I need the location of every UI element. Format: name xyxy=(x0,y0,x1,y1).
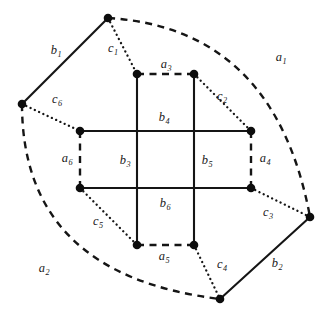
inner-vertex-bottom-right xyxy=(190,241,199,250)
edge-label-c2-base: c xyxy=(217,89,223,103)
inner-vertex-top-left xyxy=(133,70,142,79)
edge-label-b5: b5 xyxy=(202,154,213,167)
edge-label-b4: b4 xyxy=(159,111,170,124)
edge-label-b5-base: b xyxy=(202,153,208,167)
edge-label-c2: c2 xyxy=(217,90,227,103)
edge-label-c4-base: c xyxy=(217,257,223,271)
edge-label-c6: c6 xyxy=(52,93,62,106)
edge-label-c5-base: c xyxy=(93,214,99,228)
edge-label-c3: c3 xyxy=(263,206,273,219)
edge-label-a2: a2 xyxy=(39,262,50,275)
inner-vertex-left-bottom xyxy=(76,184,85,193)
edge-label-c5: c5 xyxy=(93,215,103,228)
edge-label-b6-base: b xyxy=(160,196,166,210)
outer-vertex-right xyxy=(306,213,315,222)
edge-label-b2-sub: 2 xyxy=(278,262,282,271)
edge-label-a5-base: a xyxy=(159,249,165,263)
edge-label-c3-base: c xyxy=(263,205,269,219)
inner-vertex-right-top xyxy=(247,127,256,136)
edge-label-b3-base: b xyxy=(120,153,126,167)
edge-label-a5: a5 xyxy=(159,250,170,263)
edge-label-a6-sub: 6 xyxy=(68,157,72,166)
edge-label-c6-base: c xyxy=(52,92,58,106)
edge-label-a5-sub: 5 xyxy=(165,255,169,264)
edge-label-a4: a4 xyxy=(260,152,271,165)
edge-label-a1-sub: 1 xyxy=(282,56,286,65)
outer-vertex-left xyxy=(18,100,27,109)
outer-vertex-bottom xyxy=(216,295,225,304)
edge-label-c4: c4 xyxy=(217,258,227,271)
edge-a2 xyxy=(22,104,220,299)
edge-c4 xyxy=(194,245,220,299)
edge-label-b4-sub: 4 xyxy=(165,116,169,125)
edge-label-a3-base: a xyxy=(161,57,167,71)
edge-label-b1: b1 xyxy=(51,44,62,57)
edge-label-a6-base: a xyxy=(62,151,68,165)
edge-label-c5-sub: 5 xyxy=(99,220,103,229)
inner-vertex-left-top xyxy=(76,127,85,136)
edge-label-b5-sub: 5 xyxy=(208,159,212,168)
edge-label-b2: b2 xyxy=(272,257,283,270)
edge-label-c6-sub: 6 xyxy=(58,98,62,107)
edge-label-b3-sub: 3 xyxy=(126,159,130,168)
edge-label-c2-sub: 2 xyxy=(223,95,227,104)
edge-label-a4-sub: 4 xyxy=(266,157,270,166)
edge-label-a2-sub: 2 xyxy=(45,267,49,276)
edge-label-b6-sub: 6 xyxy=(166,202,170,211)
edge-c6 xyxy=(22,104,80,131)
inner-vertex-right-bottom xyxy=(247,184,256,193)
edge-b1 xyxy=(22,18,108,104)
edge-label-b4-base: b xyxy=(159,110,165,124)
edge-label-b1-sub: 1 xyxy=(57,49,61,58)
edge-b2 xyxy=(220,217,310,299)
edge-label-c1-sub: 1 xyxy=(114,47,118,56)
edge-label-a2-base: a xyxy=(39,261,45,275)
edge-label-a3-sub: 3 xyxy=(167,63,171,72)
edge-label-b1-base: b xyxy=(51,43,57,57)
edge-label-a4-base: a xyxy=(260,151,266,165)
edge-label-a6: a6 xyxy=(62,152,73,165)
edge-label-c1: c1 xyxy=(108,42,118,55)
edge-label-c4-sub: 4 xyxy=(223,263,227,272)
edge-label-a3: a3 xyxy=(161,58,172,71)
edge-label-b2-base: b xyxy=(272,256,278,270)
edge-label-b3: b3 xyxy=(120,154,131,167)
edge-label-c1-base: c xyxy=(108,41,114,55)
outer-vertex-top xyxy=(104,14,113,23)
graph-figure: a1 a2 a3 a4 a5 a6 b1 b2 b3 b4 b5 b6 c1 c… xyxy=(0,0,325,326)
inner-vertex-bottom-left xyxy=(133,241,142,250)
inner-vertex-top-right xyxy=(190,70,199,79)
edge-label-a1-base: a xyxy=(276,50,282,64)
edge-label-a1: a1 xyxy=(276,51,287,64)
edge-label-c3-sub: 3 xyxy=(269,211,273,220)
edge-c3 xyxy=(251,188,310,217)
edge-label-b6: b6 xyxy=(160,197,171,210)
edge-c5 xyxy=(80,188,137,245)
